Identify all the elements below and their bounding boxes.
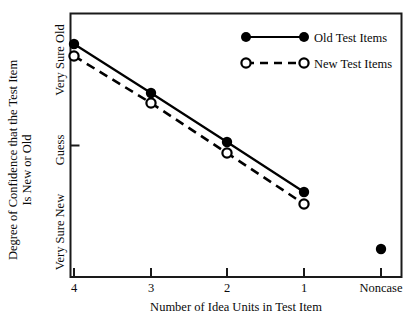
y-axis-title-line2: Is New or Old <box>20 134 34 206</box>
x-tick-marks <box>74 268 381 277</box>
data-point-noncase <box>376 244 386 254</box>
data-point-new-2 <box>222 148 231 157</box>
data-point-new-3 <box>146 98 155 107</box>
data-point-old-1 <box>299 187 309 197</box>
y-tick-label-very-sure-old: Very Sure Old <box>53 23 67 95</box>
x-tick-label-4: 4 <box>71 281 78 295</box>
y-axis-title-line1: Degree of Confidence that the Test Item <box>6 60 20 260</box>
legend-marker-old-left <box>241 32 251 42</box>
y-tick-label-guess: Guess <box>53 135 67 166</box>
legend-marker-new-right <box>299 58 308 67</box>
legend-label-new-test-items: New Test Items <box>314 57 392 71</box>
data-point-old-3 <box>146 88 156 98</box>
x-axis-title: Number of Idea Units in Test Item <box>150 300 322 314</box>
y-tick-label-very-sure-new: Very Sure New <box>53 194 67 270</box>
data-point-old-4 <box>69 39 79 49</box>
legend-marker-new-left <box>241 58 250 67</box>
data-point-new-4 <box>69 51 78 60</box>
legend-label-old-test-items: Old Test Items <box>314 31 387 45</box>
series-line-old-test-items <box>74 44 304 192</box>
data-point-old-2 <box>222 137 232 147</box>
x-tick-label-1: 1 <box>301 281 307 295</box>
legend-entry-new-test-items: New Test Items <box>241 57 392 71</box>
legend-entry-old-test-items: Old Test Items <box>241 31 387 45</box>
x-tick-label-noncase: Noncase <box>359 281 402 295</box>
data-point-new-1 <box>299 199 308 208</box>
line-chart: 4 3 2 1 Noncase Number of Idea Units in … <box>0 0 420 323</box>
series-line-new-test-items <box>74 56 304 204</box>
x-tick-label-3: 3 <box>148 281 154 295</box>
legend-marker-old-right <box>299 32 309 42</box>
figure-container: 4 3 2 1 Noncase Number of Idea Units in … <box>0 0 420 323</box>
plot-frame <box>71 14 402 278</box>
x-tick-label-2: 2 <box>224 281 230 295</box>
